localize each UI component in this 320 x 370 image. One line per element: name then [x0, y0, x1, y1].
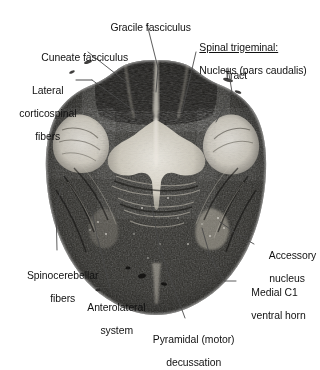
label-lateral-corticospinal-line2: corticospinal — [19, 108, 76, 119]
label-pyramidal-decussation: Pyramidal (motor) decussation — [132, 322, 244, 370]
label-lateral-corticospinal-line3: fibers — [35, 131, 60, 142]
label-pyramidal-line2: decussation — [166, 357, 221, 368]
label-cuneate-fasciculus: Cuneate fasciculus — [25, 40, 133, 75]
label-spinocerebellar-line1: Spinocerebellar — [27, 270, 98, 281]
label-anterolateral-line2: system — [100, 325, 133, 336]
label-gracile-fasciculus-line1: Gracile fasciculus — [110, 22, 191, 33]
label-tract: Tract — [205, 58, 255, 93]
label-lateral-corticospinal-line1: Lateral — [32, 85, 63, 96]
label-pyramidal-line1: Pyramidal (motor) — [153, 334, 235, 345]
label-tract-line1: Tract — [224, 70, 247, 81]
label-cuneate-fasciculus-line1: Cuneate fasciculus — [41, 52, 128, 63]
label-lateral-corticospinal-fibers: Lateral corticospinal fibers — [8, 73, 76, 154]
label-accessory-nucleus-line1: Accessory — [269, 250, 316, 261]
label-medial-c1-ventral-horn: Medial C1 ventral horn — [240, 275, 318, 333]
label-spinal-trigeminal-heading: Spinal trigeminal: — [199, 42, 278, 53]
label-medial-c1-line2: ventral horn — [251, 310, 305, 321]
label-medial-c1-line1: Medial C1 — [251, 287, 297, 298]
label-anterolateral-line1: Anterolateral — [87, 302, 145, 313]
